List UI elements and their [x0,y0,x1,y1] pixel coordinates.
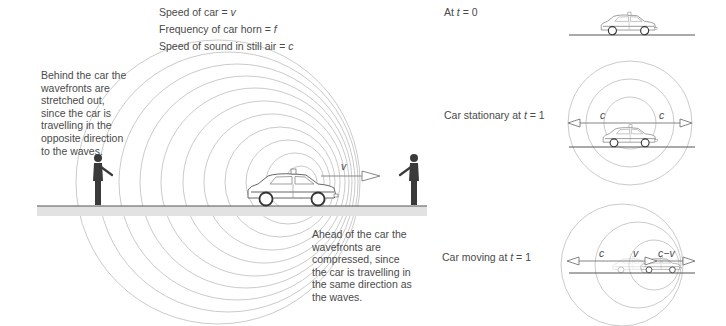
observer-ahead [400,154,419,205]
moving-middle-label: v [633,247,638,260]
legend-speed-of-sound: Speed of sound in still air = c [159,38,294,55]
annotation-ahead: Ahead of the car the wavefronts are comp… [312,228,412,304]
panel-t0 [569,12,695,35]
road [37,206,427,216]
legend-horn-frequency: Frequency of car horn = f [159,21,294,38]
panel-moving [561,204,695,326]
moving-left-label: c [599,247,604,260]
legend: Speed of car = v Frequency of car horn =… [159,4,294,55]
moving-right-label: c−v [658,247,675,260]
caption-stationary: Car stationary at t = 1 [444,109,545,122]
legend-speed-of-car: Speed of car = v [159,4,294,21]
car-main [248,169,338,206]
caption-t0: At t = 0 [444,6,478,19]
observer-behind [93,154,112,205]
velocity-label: v [341,160,346,173]
caption-moving: Car moving at t = 1 [442,251,531,264]
stationary-right-label: c [659,109,664,122]
annotation-behind: Behind the car the wavefronts are stretc… [41,69,131,157]
panel-stationary [568,61,695,185]
stationary-left-label: c [600,109,605,122]
